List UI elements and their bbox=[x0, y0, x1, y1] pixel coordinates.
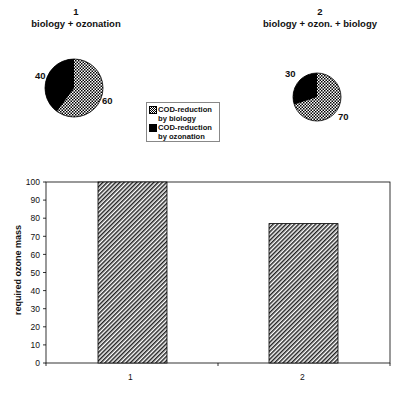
x-axis-ticks bbox=[46, 363, 390, 366]
x-tick-2: 2 bbox=[300, 372, 305, 382]
pie2-label-ozonation: 30 bbox=[285, 68, 296, 79]
y-tick-100: 100 bbox=[26, 177, 40, 187]
y-axis-ticks bbox=[43, 182, 46, 363]
pie-chart-2 bbox=[293, 73, 341, 121]
y-tick-70: 70 bbox=[31, 232, 40, 242]
pie2-label-biology: 70 bbox=[338, 111, 349, 122]
legend-label-ozonation: COD-reduction by ozonation bbox=[158, 123, 220, 141]
legend-label-biology: COD-reduction by biology bbox=[158, 105, 220, 123]
y-tick-60: 60 bbox=[31, 250, 40, 260]
solid-swatch-icon bbox=[149, 124, 157, 132]
y-tick-30: 30 bbox=[31, 304, 40, 314]
y-tick-40: 40 bbox=[31, 286, 40, 296]
y-tick-0: 0 bbox=[35, 358, 40, 368]
y-tick-50: 50 bbox=[31, 268, 40, 278]
legend: COD-reduction by biology COD-reduction b… bbox=[146, 102, 220, 142]
y-tick-10: 10 bbox=[31, 340, 40, 350]
pie-chart-1 bbox=[45, 59, 103, 117]
bar-chart bbox=[43, 182, 390, 366]
pie1-label-biology: 60 bbox=[102, 95, 113, 106]
y-tick-80: 80 bbox=[31, 213, 40, 223]
x-tick-1: 1 bbox=[128, 372, 133, 382]
y-tick-20: 20 bbox=[31, 322, 40, 332]
y-tick-90: 90 bbox=[31, 195, 40, 205]
chart-canvas bbox=[0, 0, 403, 394]
checker-swatch-icon bbox=[149, 106, 157, 114]
bar-1 bbox=[98, 182, 167, 363]
y-axis-label: required ozone mass bbox=[13, 210, 23, 330]
pie1-label-ozonation: 40 bbox=[35, 70, 46, 81]
bar-2 bbox=[269, 224, 338, 363]
